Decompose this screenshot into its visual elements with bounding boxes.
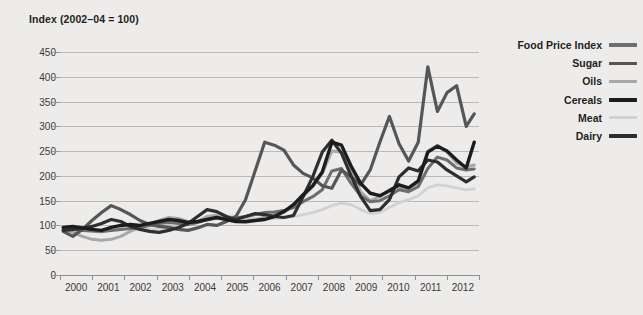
food-price-index-chart: Index (2002–04 = 100) 050100150200250300… [0, 0, 643, 315]
legend-label: Sugar [572, 57, 602, 69]
y-tick-mark-400 [52, 77, 60, 78]
x-tick-mark-1 [92, 275, 93, 280]
x-tick-mark-0 [60, 275, 61, 280]
y-tick-mark-250 [52, 151, 60, 152]
x-tick-mark-2 [124, 275, 125, 280]
legend-swatch-icon [609, 98, 637, 102]
y-tick-label-150: 150 [22, 195, 56, 206]
legend-label: Oils [582, 75, 602, 87]
x-tick-mark-9 [350, 275, 351, 280]
x-tick-mark-7 [286, 275, 287, 280]
y-tick-mark-300 [52, 126, 60, 127]
legend-item-sugar[interactable]: Sugar [497, 54, 637, 72]
y-tick-mark-200 [52, 176, 60, 177]
legend-swatch-icon [609, 43, 637, 46]
x-tick-mark-6 [253, 275, 254, 280]
x-tick-mark-11 [415, 275, 416, 280]
y-tick-label-450: 450 [22, 47, 56, 58]
x-tick-mark-5 [221, 275, 222, 280]
legend-label: Cereals [564, 94, 602, 106]
legend-swatch-icon [609, 134, 637, 138]
y-tick-label-250: 250 [22, 146, 56, 157]
legend-item-cereals[interactable]: Cereals [497, 91, 637, 109]
legend-label: Dairy [576, 130, 602, 142]
y-tick-mark-0 [52, 275, 60, 276]
legend-swatch-icon [609, 62, 637, 66]
y-tick-label-400: 400 [22, 71, 56, 82]
legend-label: Meat [578, 112, 602, 124]
y-tick-mark-350 [52, 102, 60, 103]
y-tick-label-300: 300 [22, 121, 56, 132]
chart-legend: Food Price IndexSugarOilsCerealsMeatDair… [497, 36, 637, 145]
x-tick-label-2012: 2012 [443, 282, 483, 293]
y-tick-label-50: 50 [22, 245, 56, 256]
y-tick-mark-450 [52, 52, 60, 53]
plot-area [60, 52, 479, 275]
y-tick-label-100: 100 [22, 220, 56, 231]
y-tick-mark-50 [52, 250, 60, 251]
chart-axis-title: Index (2002–04 = 100) [29, 13, 139, 25]
legend-item-oils[interactable]: Oils [497, 72, 637, 90]
legend-swatch-icon [609, 116, 637, 119]
y-tick-label-200: 200 [22, 170, 56, 181]
x-tick-mark-3 [157, 275, 158, 280]
x-tick-mark-8 [318, 275, 319, 280]
legend-label: Food Price Index [517, 39, 602, 51]
y-tick-mark-150 [52, 201, 60, 202]
x-tick-mark-12 [447, 275, 448, 280]
legend-item-dairy[interactable]: Dairy [497, 127, 637, 145]
x-axis-line [60, 275, 479, 276]
series-lines [60, 52, 479, 275]
y-tick-label-350: 350 [22, 96, 56, 107]
x-tick-mark-13 [479, 275, 480, 280]
y-tick-mark-100 [52, 225, 60, 226]
x-tick-mark-10 [382, 275, 383, 280]
legend-item-food-price-index[interactable]: Food Price Index [497, 36, 637, 54]
x-tick-mark-4 [189, 275, 190, 280]
legend-swatch-icon [609, 80, 637, 83]
y-tick-label-0: 0 [22, 270, 56, 281]
legend-item-meat[interactable]: Meat [497, 109, 637, 127]
